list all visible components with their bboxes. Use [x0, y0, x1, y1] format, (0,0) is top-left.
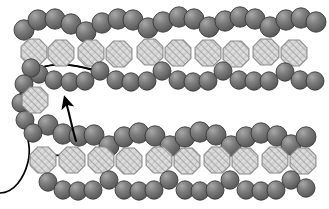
- dark-sphere-bead: [122, 73, 140, 91]
- dark-sphere-bead: [214, 62, 232, 80]
- dark-sphere-bead: [91, 62, 109, 80]
- hatched-octagon-unit: [232, 148, 258, 174]
- hatched-octagon-unit: [262, 147, 288, 173]
- figure-canvas: [0, 0, 329, 209]
- hatched-octagon-unit: [88, 147, 114, 173]
- dark-sphere-bead: [260, 72, 278, 90]
- hatched-octagon-unit: [253, 39, 279, 65]
- dark-sphere-bead: [296, 127, 316, 147]
- hatched-octagon-unit: [195, 40, 221, 66]
- dark-sphere-bead: [160, 171, 178, 189]
- dark-sphere-bead: [24, 124, 42, 142]
- hatched-octagon-unit: [59, 147, 85, 173]
- hatched-octagon-unit: [48, 40, 74, 66]
- hatched-octagon-unit: [290, 148, 316, 174]
- hatched-octagon-unit: [30, 147, 56, 173]
- dark-sphere-bead: [84, 181, 102, 199]
- hatched-octagon-unit: [116, 148, 142, 174]
- sphere-row-bottom-inner: [39, 171, 315, 200]
- dark-sphere-bead: [153, 62, 171, 80]
- hatched-octagon-unit: [146, 147, 172, 173]
- molecular-chain-diagram: [0, 0, 329, 209]
- dark-sphere-bead: [221, 171, 239, 189]
- hatched-octagon-unit: [204, 147, 230, 173]
- dark-sphere-bead: [306, 12, 326, 32]
- dark-sphere-bead: [306, 72, 324, 90]
- hatched-octagon-unit: [137, 39, 163, 65]
- hatched-octagon-unit: [174, 148, 200, 174]
- hatched-octagon-unit: [281, 40, 307, 66]
- dark-sphere-bead: [45, 71, 63, 89]
- hatched-octagon-unit: [106, 41, 132, 67]
- dark-sphere-bead: [297, 179, 315, 197]
- hatched-octagon-unit: [22, 87, 48, 113]
- hatched-octagon-unit: [165, 40, 191, 66]
- sphere-row-top-outer: [14, 7, 326, 42]
